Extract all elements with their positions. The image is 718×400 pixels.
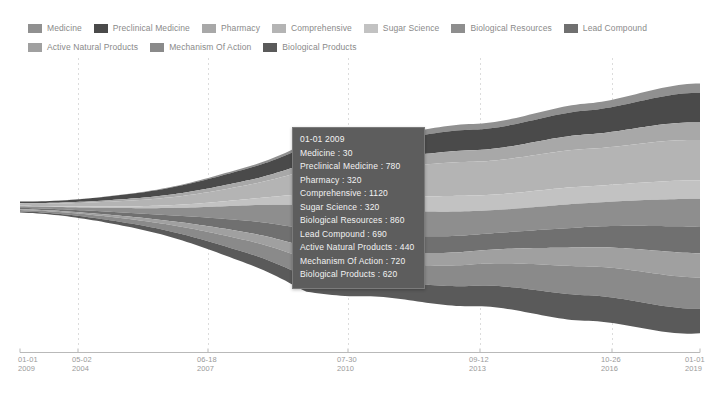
tick-label-top: 01-01	[685, 355, 705, 364]
tick-label-bottom: 2004	[72, 364, 92, 373]
legend-swatch-icon	[28, 24, 42, 33]
x-axis-tick: 05-022004	[72, 355, 92, 373]
x-axis-tick: 01-012019	[685, 355, 705, 373]
tick-label-bottom: 2019	[685, 364, 705, 373]
x-axis-tick: 01-012009	[18, 355, 38, 373]
tooltip-row: Sugar Science : 320	[300, 201, 417, 215]
legend-item[interactable]: Comprehensive	[272, 22, 352, 35]
legend-item-label: Pharmacy	[221, 24, 260, 33]
legend-item-label: Biological Resources	[470, 24, 551, 33]
tick-label-top: 01-01	[18, 355, 38, 364]
tooltip-row: Biological Products : 620	[300, 268, 417, 282]
legend-item[interactable]: Lead Compound	[564, 22, 647, 35]
tooltip-rows: Medicine : 30Preclinical Medicine : 780P…	[300, 147, 417, 282]
legend-item[interactable]: Sugar Science	[364, 22, 440, 35]
tooltip-row: Medicine : 30	[300, 147, 417, 161]
legend-item-label: Mechanism Of Action	[169, 43, 251, 52]
tick-label-top: 09-12	[469, 355, 489, 364]
tick-label-top: 06-18	[197, 355, 217, 364]
tooltip-row: Pharmacy : 320	[300, 174, 417, 188]
legend-swatch-icon	[272, 24, 286, 33]
tick-label-top: 10-26	[601, 355, 621, 364]
x-axis-tick: 06-182007	[197, 355, 217, 373]
legend-item-label: Medicine	[47, 24, 82, 33]
x-axis-tick: 09-122013	[469, 355, 489, 373]
legend-item-label: Biological Products	[282, 43, 356, 52]
x-axis-tick: 07-302010	[337, 355, 357, 373]
legend-item-label: Active Natural Products	[47, 43, 138, 52]
legend-item[interactable]: Mechanism Of Action	[150, 41, 251, 54]
legend-swatch-icon	[564, 24, 578, 33]
legend-swatch-icon	[202, 24, 216, 33]
legend-swatch-icon	[28, 43, 42, 52]
tooltip-row: Preclinical Medicine : 780	[300, 160, 417, 174]
legend-item[interactable]: Biological Products	[263, 41, 356, 54]
tooltip-row: Mechanism Of Action : 720	[300, 255, 417, 269]
tick-label-bottom: 2016	[601, 364, 621, 373]
tooltip-row: Comprehensive : 1120	[300, 187, 417, 201]
tooltip-row: Active Natural Products : 440	[300, 241, 417, 255]
legend-item[interactable]: Pharmacy	[202, 22, 260, 35]
tick-label-bottom: 2010	[337, 364, 357, 373]
legend-swatch-icon	[451, 24, 465, 33]
chart-legend: MedicinePreclinical MedicinePharmacyComp…	[28, 22, 708, 60]
tick-label-top: 07-30	[337, 355, 357, 364]
legend-item[interactable]: Biological Resources	[451, 22, 551, 35]
legend-item-label: Preclinical Medicine	[113, 24, 190, 33]
streamgraph-page: MedicinePreclinical MedicinePharmacyComp…	[0, 0, 718, 400]
tick-label-top: 05-02	[72, 355, 92, 364]
legend-item-label: Comprehensive	[291, 24, 352, 33]
legend-item-label: Sugar Science	[383, 24, 440, 33]
legend-swatch-icon	[94, 24, 108, 33]
tooltip-row: Lead Compound : 690	[300, 228, 417, 242]
tick-label-bottom: 2013	[469, 364, 489, 373]
tooltip-title: 01-01 2009	[300, 133, 417, 147]
x-axis-tick: 10-262016	[601, 355, 621, 373]
tick-label-bottom: 2007	[197, 364, 217, 373]
legend-swatch-icon	[364, 24, 378, 33]
legend-swatch-icon	[263, 43, 277, 52]
tooltip-row: Biological Resources : 860	[300, 214, 417, 228]
legend-item[interactable]: Preclinical Medicine	[94, 22, 190, 35]
chart-tooltip: 01-01 2009 Medicine : 30Preclinical Medi…	[292, 127, 425, 289]
legend-item[interactable]: Active Natural Products	[28, 41, 138, 54]
legend-swatch-icon	[150, 43, 164, 52]
legend-item-label: Lead Compound	[583, 24, 647, 33]
x-axis: 01-01200905-02200406-18200707-30201009-1…	[0, 348, 718, 396]
tick-label-bottom: 2009	[18, 364, 38, 373]
legend-item[interactable]: Medicine	[28, 22, 82, 35]
